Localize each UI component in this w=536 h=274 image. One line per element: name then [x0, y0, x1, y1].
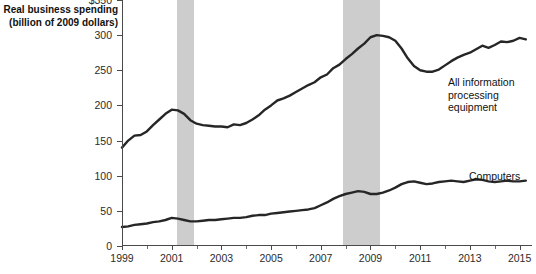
- x-axis-tick: [370, 246, 371, 250]
- x-axis-tick: [122, 246, 123, 250]
- y-axis-tick: [117, 35, 122, 36]
- x-axis-tick: [221, 246, 222, 250]
- x-axis-minor-tick: [445, 246, 446, 249]
- y-axis-tick: [117, 211, 122, 212]
- x-axis-tick: [321, 246, 322, 250]
- plot-area: [122, 0, 532, 246]
- x-axis-minor-tick: [346, 246, 347, 249]
- x-axis-tick-label: 2015: [508, 252, 531, 264]
- series-label-computers: Computers: [469, 170, 520, 183]
- y-axis-tick-label: 100: [0, 170, 112, 182]
- y-axis-tick-label: 300: [0, 29, 112, 41]
- y-axis-tick-label: $350: [0, 0, 112, 6]
- x-axis-minor-tick: [495, 246, 496, 249]
- series-label-all-information-processing-equipment: All information processing equipment: [448, 76, 536, 114]
- y-axis-tick: [117, 70, 122, 71]
- x-axis-minor-tick: [296, 246, 297, 249]
- series-lines-group: [122, 0, 532, 246]
- x-axis-tick: [271, 246, 272, 250]
- y-axis-tick-label: 150: [0, 135, 112, 147]
- series-line: [122, 179, 526, 227]
- y-axis-tick-label: 50: [0, 205, 112, 217]
- y-axis-tick: [117, 176, 122, 177]
- chart-container: Real business spending (billion of 2009 …: [0, 0, 536, 274]
- x-axis-tick-label: 2007: [309, 252, 332, 264]
- x-axis-tick: [470, 246, 471, 250]
- x-axis-tick-label: 2009: [359, 252, 382, 264]
- x-axis-tick: [420, 246, 421, 250]
- y-axis-line: [122, 0, 123, 246]
- x-axis-tick-label: 1999: [110, 252, 133, 264]
- x-axis-tick: [520, 246, 521, 250]
- x-axis-tick-label: 2013: [458, 252, 481, 264]
- x-axis-tick-label: 2011: [409, 252, 432, 264]
- x-axis-minor-tick: [147, 246, 148, 249]
- y-axis-tick-label: 250: [0, 64, 112, 76]
- chart-axis-title: Real business spending (billion of 2009 …: [0, 4, 118, 29]
- y-axis-tick-label: 200: [0, 99, 112, 111]
- y-axis-tick: [117, 105, 122, 106]
- x-axis-tick-label: 2005: [259, 252, 282, 264]
- x-axis-minor-tick: [197, 246, 198, 249]
- y-axis-tick-label: 0: [0, 240, 112, 252]
- x-axis-tick-label: 2003: [210, 252, 233, 264]
- y-axis-tick: [117, 141, 122, 142]
- y-axis-tick: [117, 0, 122, 1]
- x-axis-minor-tick: [395, 246, 396, 249]
- x-axis-tick: [172, 246, 173, 250]
- x-axis-minor-tick: [246, 246, 247, 249]
- x-axis-tick-label: 2001: [160, 252, 183, 264]
